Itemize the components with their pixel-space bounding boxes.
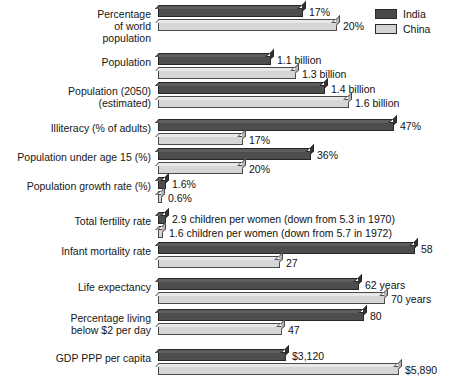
bar-value-india: 80 [370,310,382,322]
row-bars: 17% 20% [155,8,460,35]
bar-line-china: 0.6% [158,194,460,207]
bar-line-china: 27 [158,259,460,272]
row-bars: 1.4 billion 1.6 billion [155,85,460,112]
bar-india: 17% [158,8,303,17]
bar-china: 1.6 billion [158,99,349,108]
chart-row: Total fertility rate 2.9 children per wo… [0,215,460,242]
bar-value-china: 0.6% [168,192,192,204]
bar-china: 0.6% [158,194,162,203]
bar-value-china: 27 [286,257,298,269]
row-bars: 1.1 billion 1.3 billion [155,56,460,83]
bar-value-india: 1.6% [172,178,196,190]
row-bars: 47% 17% [155,122,460,149]
bar-value-india: $3,120 [292,350,324,362]
bar-china: 20% [158,22,337,31]
bar-value-china: 20% [343,20,364,32]
bar-value-china: $5,890 [405,364,437,376]
bar-china: $5,890 [158,366,399,375]
bar-china: 17% [158,136,243,145]
row-label: GDP PPP per capita [0,352,155,364]
row-label: Illiteracy (% of adults) [0,122,155,134]
bar-india: 58 [158,245,415,254]
bar-line-china: $5,890 [158,366,460,379]
row-label: Population (2050) (estimated) [0,85,155,109]
bar-india: 1.4 billion [158,85,325,94]
row-bars: 36% 20% [155,151,460,178]
bar-india: 1.1 billion [158,56,271,65]
chart-row: Population 1.1 billion 1.3 billion [0,56,460,83]
bar-india: 80 [158,312,364,321]
bar-china: 1.6 children per women (down from 5.7 in… [158,229,163,238]
chart-row: Percentage living below $2 per day 80 47 [0,312,460,339]
bar-line-china: 20% [158,165,460,178]
chart-row: Population under age 15 (%) 36% 20% [0,151,460,178]
bar-value-china: 1.3 billion [302,68,346,80]
bar-line-china: 47 [158,326,460,339]
row-bars: 58 27 [155,245,460,272]
chart-row: Population growth rate (%) 1.6% 0.6% [0,180,460,207]
row-bars: 80 47 [155,312,460,339]
bar-value-china: 20% [249,163,270,175]
chart-row: Life expectancy 62 years 70 years [0,281,460,308]
bar-line-china: 20% [158,22,460,35]
bar-value-china: 47 [288,324,300,336]
comparison-bar-chart: India China Percentage of world populati… [0,0,460,391]
bar-india: 36% [158,151,311,160]
row-label: Percentage living below $2 per day [0,312,155,336]
chart-row: Illiteracy (% of adults) 47% 17% [0,122,460,149]
row-label: Population growth rate (%) [0,180,155,192]
bar-value-india: 58 [421,243,433,255]
chart-row: Population (2050) (estimated) 1.4 billio… [0,85,460,112]
bar-line-india: 1.6% [158,180,460,193]
row-label: Percentage of world population [0,8,155,45]
row-label: Population under age 15 (%) [0,151,155,163]
row-bars: 62 years 70 years [155,281,460,308]
chart-row: Infant mortality rate 58 27 [0,245,460,272]
bar-india: 62 years [158,281,359,290]
bar-value-india: 47% [400,120,421,132]
bar-india: 47% [158,122,394,131]
bar-china: 70 years [158,295,385,304]
bar-value-india: 17% [309,6,330,18]
bar-india: $3,120 [158,352,286,361]
bar-line-china: 70 years [158,295,460,308]
row-bars: 2.9 children per women (down from 5.3 in… [155,215,460,242]
row-label: Infant mortality rate [0,245,155,257]
row-label: Life expectancy [0,281,155,293]
bar-value-china: 1.6 billion [355,97,399,109]
bar-value-india: 2.9 children per women (down from 5.3 in… [172,213,395,225]
row-bars: $3,120 $5,890 [155,352,460,379]
row-bars: 1.6% 0.6% [155,180,460,207]
chart-row: Percentage of world population 17% 20% [0,8,460,45]
bar-value-india: 1.4 billion [331,83,375,95]
bar-line-china: 1.6 billion [158,99,460,112]
bar-value-china: 70 years [391,293,431,305]
row-label: Total fertility rate [0,215,155,227]
bar-value-china: 1.6 children per women (down from 5.7 in… [169,227,392,239]
bar-china: 1.3 billion [158,70,296,79]
bar-value-india: 1.1 billion [277,54,321,66]
bar-value-china: 17% [249,134,270,146]
bar-value-india: 36% [317,149,338,161]
row-label: Population [0,56,155,68]
chart-row: GDP PPP per capita $3,120 $5,890 [0,352,460,379]
bar-china: 27 [158,259,280,268]
bar-china: 20% [158,165,243,174]
bar-china: 47 [158,326,282,335]
